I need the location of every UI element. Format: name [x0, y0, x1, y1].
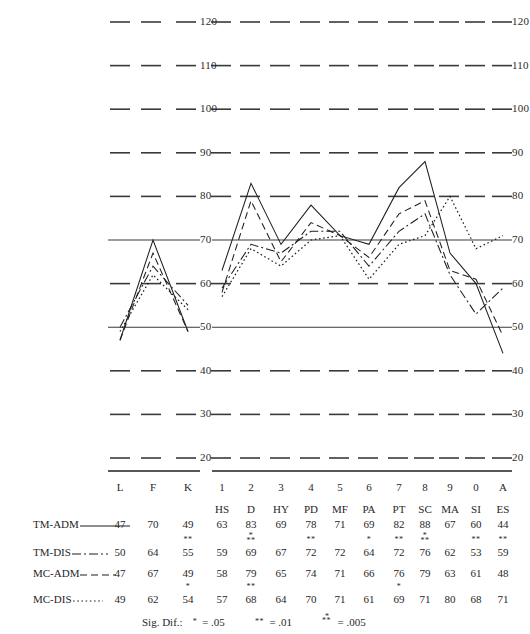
y-tick-label-left: 70 [200, 234, 211, 245]
table-cell-value: 64 [266, 593, 296, 605]
y-tick-label-right: 30 [512, 408, 523, 419]
y-tick-label-right: 90 [512, 147, 523, 158]
table-cell-value: 62 [138, 593, 168, 605]
table-cell-value: 58 [207, 567, 237, 579]
legend-label-text: TM-ADM [33, 518, 79, 530]
table-cell-value: 68 [461, 593, 491, 605]
significance-marker: ** [296, 537, 326, 542]
column-header-clinical: 2 [238, 481, 264, 493]
table-cell-value: 70 [138, 518, 168, 530]
table-cell-value: 69 [354, 518, 384, 530]
table-cell-value: 71 [325, 518, 355, 530]
significance-marker: * [384, 584, 414, 589]
y-tick-label-right: 100 [512, 103, 529, 114]
column-header-validity: L [107, 481, 133, 493]
table-cell-value: 55 [173, 546, 203, 558]
y-tick-label-right: 40 [512, 365, 523, 376]
y-tick-label-left: 110 [200, 60, 217, 71]
table-cell-value: 66 [354, 567, 384, 579]
column-header-clinical: 6 [356, 481, 382, 493]
y-tick-label-right: 110 [512, 60, 529, 71]
table-cell-value: 47 [105, 518, 135, 530]
table-cell-value: 78 [296, 518, 326, 530]
y-tick-label-left: 40 [200, 365, 211, 376]
table-cell-value: 67 [266, 546, 296, 558]
table-cell-value: 69 [236, 546, 266, 558]
table-cell-value: 70 [296, 593, 326, 605]
column-subheader-scale: MF [325, 503, 355, 515]
y-tick-label-left: 100 [200, 103, 217, 114]
y-tick-label-left: 30 [200, 408, 211, 419]
table-cell-value: 63 [207, 518, 237, 530]
column-subheader-scale: D [236, 503, 266, 515]
column-header-clinical: 7 [386, 481, 412, 493]
table-cell-value: 53 [461, 546, 491, 558]
table-cell-value: 64 [138, 546, 168, 558]
column-header-clinical: 8 [412, 481, 438, 493]
table-cell-value: 71 [325, 593, 355, 605]
table-cell-value: 60 [461, 518, 491, 530]
y-tick-label-left: 60 [200, 278, 211, 289]
table-cell-value: 59 [488, 546, 518, 558]
sig-legend-item-005: *** = .005 [322, 615, 366, 628]
table-cell-value: 47 [105, 567, 135, 579]
table-cell-value: 64 [354, 546, 384, 558]
table-cell-value: 71 [325, 567, 355, 579]
table-cell-value: 61 [461, 567, 491, 579]
column-header-clinical: 0 [463, 481, 489, 493]
legend-label-text: MC-DIS [33, 593, 72, 605]
table-cell-value: 67 [138, 567, 168, 579]
column-subheader-scale: PD [296, 503, 326, 515]
table-cell-value: 68 [236, 593, 266, 605]
y-tick-label-right: 50 [512, 321, 523, 332]
table-cell-value: 65 [266, 567, 296, 579]
table-cell-value: 69 [266, 518, 296, 530]
column-header-validity: F [140, 481, 166, 493]
y-tick-label-left: 120 [200, 16, 217, 27]
sig-legend-prefix: Sig. Dif.: [142, 616, 183, 628]
table-cell-value: 50 [105, 546, 135, 558]
table-cell-value: 79 [236, 567, 266, 579]
legend-label-text: TM-DIS [33, 546, 71, 558]
column-header-clinical: A [490, 481, 516, 493]
table-cell-value: 83 [236, 518, 266, 530]
table-cell-value: 59 [207, 546, 237, 558]
table-cell-value: 71 [488, 593, 518, 605]
table-cell-value: 61 [354, 593, 384, 605]
chart-area: 1201201101101001009090808070706060505040… [0, 0, 530, 470]
column-subheader-scale: PA [354, 503, 384, 515]
column-header-clinical: 4 [298, 481, 324, 493]
column-subheader-scale: ES [488, 503, 518, 515]
y-tick-label-left: 90 [200, 147, 211, 158]
significance-marker: * [173, 584, 203, 589]
table-cell-value: 48 [488, 567, 518, 579]
data-table: LFK1234567890AHSDHYPDMFPAPTSCMASIESTM-AD… [0, 455, 530, 634]
profile-plot [0, 0, 530, 470]
table-cell-value: 72 [325, 546, 355, 558]
column-header-clinical: 9 [437, 481, 463, 493]
column-header-clinical: 5 [327, 481, 353, 493]
y-tick-label-left: 80 [200, 190, 211, 201]
significance-marker: *** [236, 533, 266, 543]
significance-marker: ** [461, 537, 491, 542]
table-cell-value: 74 [296, 567, 326, 579]
y-tick-label-right: 70 [512, 234, 523, 245]
table-cell-value: 49 [105, 593, 135, 605]
column-header-validity: K [175, 481, 201, 493]
column-header-clinical: 1 [209, 481, 235, 493]
column-subheader-scale: HS [207, 503, 237, 515]
y-tick-label-right: 60 [512, 278, 523, 289]
significance-marker: ** [488, 537, 518, 542]
table-cell-value: 44 [488, 518, 518, 530]
significance-marker: *** [410, 533, 440, 543]
column-subheader-scale: HY [266, 503, 296, 515]
mmpi-profile-figure: 1201201101101001009090808070706060505040… [0, 0, 530, 634]
column-subheader-scale: SI [461, 503, 491, 515]
table-cell-value: 49 [173, 518, 203, 530]
significance-marker: ** [173, 537, 203, 542]
column-header-clinical: 3 [268, 481, 294, 493]
sig-legend-item-01: ** = .01 [255, 616, 292, 628]
significance-marker: * [354, 537, 384, 542]
table-cell-value: 72 [296, 546, 326, 558]
y-tick-label-right: 80 [512, 190, 523, 201]
